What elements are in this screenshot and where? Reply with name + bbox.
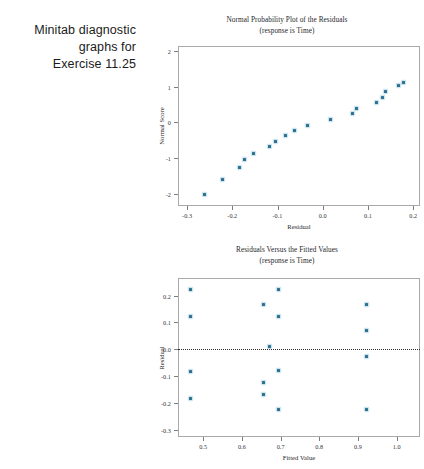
x-axis-title: Residual <box>287 223 310 230</box>
data-point <box>365 329 368 332</box>
caption-line-1: Minitab diagnostic <box>8 22 136 39</box>
plot-area: -0.3-0.2-0.10.00.10.2210-1-2ResidualNorm… <box>150 40 424 236</box>
y-axis-title: Residual <box>158 346 165 369</box>
y-axis-tick-label: 0 <box>168 119 171 126</box>
x-axis-tick <box>242 437 243 441</box>
x-axis-tick-label: 0.9 <box>354 443 362 450</box>
x-axis-tick <box>278 206 279 210</box>
data-point <box>402 81 405 84</box>
chart-subtitle: (response is Time) <box>150 255 424 266</box>
y-axis-title: Normal Score <box>158 107 165 144</box>
x-axis-title: Fitted Value <box>283 454 316 461</box>
y-axis-tick <box>174 194 178 195</box>
data-point <box>268 345 271 348</box>
x-axis-tick-label: -0.2 <box>227 212 237 219</box>
chart-title: Normal Probability Plot of the Residuals <box>150 14 424 25</box>
caption-line-2: graphs for <box>8 39 136 56</box>
y-axis-tick <box>174 87 178 88</box>
caption-line-3: Exercise 11.25 <box>8 56 136 73</box>
y-axis-tick-label: -1 <box>166 155 171 162</box>
chart-subtitle: (response is Time) <box>150 25 424 36</box>
data-point <box>262 381 265 384</box>
y-axis-tick <box>174 51 178 52</box>
data-point <box>375 101 378 104</box>
x-axis-tick <box>203 437 204 441</box>
x-axis-tick-label: 0.6 <box>238 443 246 450</box>
zero-reference-line <box>178 349 420 350</box>
data-point <box>277 288 280 291</box>
x-axis-tick <box>323 206 324 210</box>
x-axis-tick-label: 1.0 <box>393 443 401 450</box>
data-point <box>262 393 265 396</box>
data-point <box>365 303 368 306</box>
y-axis-tick <box>174 430 178 431</box>
data-point <box>189 315 192 318</box>
y-axis-tick-label: 2 <box>168 48 171 55</box>
y-axis-tick-label: -2 <box>166 190 171 197</box>
figure-caption: Minitab diagnostic graphs for Exercise 1… <box>8 22 136 73</box>
data-point <box>189 370 192 373</box>
data-point <box>189 397 192 400</box>
y-axis-tick <box>174 403 178 404</box>
data-point <box>189 288 192 291</box>
y-axis-tick <box>174 349 178 350</box>
data-point <box>329 118 332 121</box>
x-axis-tick <box>358 437 359 441</box>
data-point <box>351 112 354 115</box>
x-axis-tick-label: 0.8 <box>315 443 323 450</box>
y-axis-tick <box>174 322 178 323</box>
data-point <box>262 303 265 306</box>
data-point <box>277 315 280 318</box>
x-axis-tick-label: 0.1 <box>364 212 372 219</box>
x-axis-tick <box>319 437 320 441</box>
x-axis-tick <box>368 206 369 210</box>
data-point <box>277 408 280 411</box>
data-point <box>203 193 206 196</box>
x-axis-tick-label: 0.5 <box>199 443 207 450</box>
y-axis-tick-label: 0.2 <box>163 292 171 299</box>
data-point <box>381 96 384 99</box>
data-point <box>365 408 368 411</box>
x-axis-tick <box>281 437 282 441</box>
data-point <box>355 107 358 110</box>
y-axis-tick-label: 0.1 <box>163 319 171 326</box>
y-axis-tick-label: 1 <box>168 83 171 90</box>
y-axis-tick-label: -0.1 <box>161 373 171 380</box>
x-axis-tick-label: -0.3 <box>182 212 192 219</box>
plot-frame <box>178 46 420 206</box>
x-axis-tick <box>397 437 398 441</box>
x-axis-tick-label: -0.1 <box>273 212 283 219</box>
normal-probability-plot-figure: Normal Probability Plot of the Residuals… <box>150 14 424 236</box>
data-point <box>274 140 277 143</box>
y-axis-tick <box>174 158 178 159</box>
data-point <box>221 178 224 181</box>
y-axis-tick <box>174 376 178 377</box>
x-axis-tick-label: 0.0 <box>319 212 327 219</box>
plot-area: 0.50.60.70.80.91.00.20.10.0-0.1-0.2-0.3F… <box>150 270 424 469</box>
x-axis-tick <box>187 206 188 210</box>
x-axis-tick <box>413 206 414 210</box>
y-axis-tick <box>174 296 178 297</box>
data-point <box>277 369 280 372</box>
y-axis-tick-label: -0.3 <box>161 427 171 434</box>
residuals-versus-fitted-figure: Residuals Versus the Fitted Values (resp… <box>150 244 424 469</box>
x-axis-tick-label: 0.7 <box>277 443 285 450</box>
x-axis-tick <box>232 206 233 210</box>
data-point <box>284 134 287 137</box>
y-axis-tick <box>174 122 178 123</box>
data-point <box>397 84 400 87</box>
data-point <box>306 124 309 127</box>
plot-frame <box>178 278 420 437</box>
chart-title: Residuals Versus the Fitted Values <box>150 244 424 255</box>
x-axis-tick-label: 0.2 <box>409 212 417 219</box>
y-axis-tick-label: -0.2 <box>161 400 171 407</box>
data-point <box>384 90 387 93</box>
